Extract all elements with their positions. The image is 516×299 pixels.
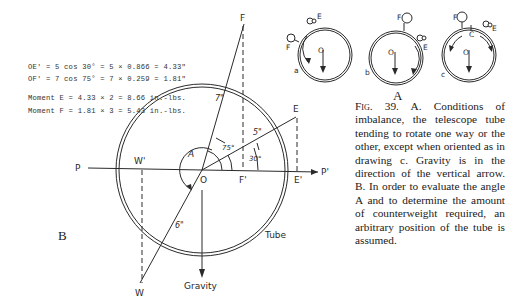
label-f: F — [240, 13, 245, 23]
c-label-id: c — [441, 70, 445, 79]
a-label-id: a — [294, 66, 299, 75]
drawing-c — [442, 12, 496, 82]
c-label-f: F — [453, 13, 457, 22]
label-o: O — [200, 175, 207, 185]
label-gravity: Gravity — [184, 281, 218, 291]
c-label-o: O — [463, 48, 469, 57]
figure-number: Fig. 39. — [355, 100, 399, 112]
label-e-prime: E' — [294, 175, 302, 185]
a-label-e: E — [317, 12, 322, 21]
calc-of: OF' = 7 cos 75° = 7 × 0.259 = 1.81" — [28, 75, 186, 83]
figure-caption: Fig. 39. A. Conditions of imbalance, the… — [355, 100, 505, 247]
calc-moment-e: Moment E = 4.33 × 2 = 8.66 in.-lbs. — [28, 94, 186, 102]
c-label-c: C — [469, 30, 474, 39]
drawing-b — [369, 13, 426, 85]
dist-f: 7" — [215, 94, 224, 103]
c-label-e: E — [492, 24, 497, 33]
label-p-prime: P' — [321, 167, 329, 177]
label-w: W — [135, 288, 144, 298]
label-p: P — [75, 163, 81, 173]
b-label-id: b — [365, 68, 370, 77]
b-label-e: E — [423, 43, 428, 52]
angle-f: 75° — [222, 144, 234, 152]
a-label-f: F — [286, 43, 290, 52]
b-label-f: F — [397, 13, 401, 22]
calc-moment-f: Moment F = 1.81 × 3 = 5.43 in.-lbs. — [28, 107, 186, 115]
label-tube: Tube — [264, 230, 287, 240]
caption-text: A. Conditions of imbalance, the telescop… — [355, 100, 505, 246]
dist-w: 6" — [175, 221, 184, 230]
angle-a: A — [187, 149, 194, 159]
tube-circle — [40, 0, 288, 256]
label-e: E — [293, 104, 299, 114]
dist-e: 5" — [253, 128, 262, 137]
label-w-prime: W' — [134, 156, 145, 166]
b-label-o: O — [388, 48, 394, 57]
arm-w-line — [140, 170, 202, 283]
calc-oe: OE' = 5 cos 30° = 5 × 0.866 = 4.33" — [28, 63, 186, 71]
angle-e: 30° — [249, 155, 261, 163]
a-label-o: O — [318, 46, 324, 55]
panel-b-label: B — [58, 228, 67, 243]
label-f-prime: F' — [239, 175, 247, 185]
